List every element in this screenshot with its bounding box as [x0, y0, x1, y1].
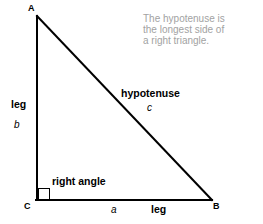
vertex-label-a: A — [28, 4, 35, 13]
caption-line-2: the longest side of — [143, 24, 261, 35]
vertex-label-c: C — [24, 202, 31, 211]
caption-line-1: The hypotenuse is — [143, 13, 261, 24]
caption-text: The hypotenuse is the longest side of a … — [143, 13, 261, 47]
caption-line-3: a right triangle. — [143, 35, 261, 46]
leg-bottom-variable-label: a — [111, 205, 117, 215]
hypotenuse-label: hypotenuse — [121, 88, 180, 99]
leg-left-label: leg — [11, 99, 26, 110]
right-angle-marker-icon — [39, 189, 50, 200]
right-triangle-diagram: A C B leg b a leg hypotenuse c right ang… — [0, 0, 263, 224]
right-angle-label: right angle — [52, 176, 106, 187]
leg-bottom-label: leg — [151, 204, 166, 215]
leg-left-variable-label: b — [14, 120, 20, 130]
hypotenuse-variable-label: c — [147, 103, 152, 113]
vertex-label-b: B — [213, 202, 220, 211]
